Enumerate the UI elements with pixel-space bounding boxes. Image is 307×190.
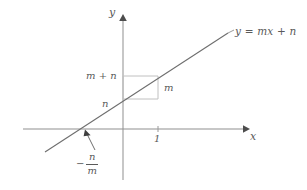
y-axis-arrowhead: [119, 14, 127, 21]
x-intercept-label: − n m: [76, 152, 98, 176]
x-axis-arrowhead: [243, 125, 250, 133]
fraction-minus-sign: −: [76, 159, 84, 169]
x-tick-one-label: 1: [154, 134, 160, 144]
y-value-at-one-label: m + n: [86, 71, 117, 81]
line-graph-figure: y x y = mx + n m + n n m 1 − n m: [0, 0, 307, 190]
plotted-line: [45, 33, 228, 152]
x-intercept-pointer-shaft: [87, 134, 95, 150]
fraction-numerator: n: [88, 152, 96, 163]
fraction-stack: n m: [86, 152, 97, 176]
x-axis-label: x: [250, 131, 256, 142]
fraction-denominator: m: [86, 166, 97, 177]
rise-label: m: [164, 83, 173, 93]
y-intercept-label: n: [102, 99, 108, 109]
y-axis-label: y: [109, 7, 115, 18]
equation-leader-line: [228, 30, 234, 33]
x-intercept-pointer-arrowhead: [84, 130, 91, 137]
line-equation-label: y = mx + n: [235, 26, 297, 37]
